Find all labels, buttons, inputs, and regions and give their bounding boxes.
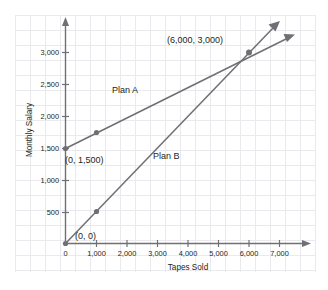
x-tick-label-0: 0 [63,249,67,258]
data-point-plan-a-1000 [94,130,99,135]
x-tick-label-2000: 2,000 [118,249,137,258]
x-tick-label-3000: 3,000 [148,249,167,258]
annotation-plan-a-intercept: (0, 1,500) [65,155,104,165]
y-axis-tick-labels: 3,000 2,500 2,000 1,500 1,000 500 [41,48,60,217]
data-point-plan-a-intercept [63,146,68,151]
y-tick-label-3000: 3,000 [41,48,60,57]
data-point-intersection [246,50,252,56]
data-point-plan-b-origin [63,241,68,246]
y-tick-label-1500: 1,500 [41,144,60,153]
background-grid [15,15,316,272]
x-tick-label-7000: 7,000 [270,249,289,258]
x-tick-label-4000: 4,000 [179,249,198,258]
series-label-plan-b: Plan B [153,151,180,161]
line-chart: 3,000 2,500 2,000 1,500 1,000 500 0 1,00… [0,0,328,290]
series-label-plan-a: Plan A [112,85,138,95]
x-tick-label-1000: 1,000 [87,249,106,258]
chart-container: 3,000 2,500 2,000 1,500 1,000 500 0 1,00… [0,0,328,290]
y-tick-label-2500: 2,500 [41,80,60,89]
annotation-origin: (0, 0) [75,231,96,241]
y-tick-label-1000: 1,000 [41,176,60,185]
x-axis-title: Tapes Sold [168,263,209,272]
y-tick-label-500: 500 [47,208,59,217]
x-axis-tick-labels: 0 1,000 2,000 3,000 4,000 5,000 6,000 7,… [63,249,288,258]
y-tick-label-2000: 2,000 [41,112,60,121]
annotation-intersection: (6,000, 3,000) [167,35,223,45]
y-axis-title: Monthly Salary [25,102,34,157]
x-tick-label-6000: 6,000 [240,249,259,258]
x-axis-arrowhead [302,240,311,247]
data-point-plan-b-1000 [94,209,99,214]
x-tick-label-5000: 5,000 [209,249,228,258]
y-axis-arrowhead [62,17,69,26]
